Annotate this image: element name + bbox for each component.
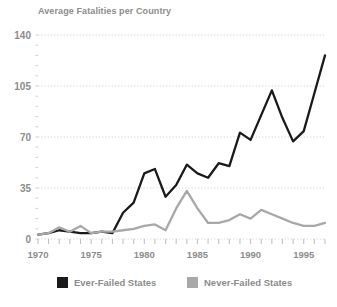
data-series [38,55,325,234]
x-tick-label-1980: 1980 [134,249,155,260]
chart-container: Average Fatalities per Country 035701051… [0,0,337,307]
series-line-ever-failed-states [38,55,325,234]
legend-swatch-0 [57,277,68,288]
x-tick-label-1970: 1970 [27,249,48,260]
x-axis-ticks: 197019751980198519901995 [27,249,315,260]
gridlines [38,35,325,239]
legend-label-1: Never-Failed States [204,277,292,288]
x-axis [38,239,325,244]
y-tick-label-70: 70 [20,132,32,143]
y-tick-label-105: 105 [14,81,31,92]
x-tick-label-1975: 1975 [81,249,103,260]
y-tick-label-35: 35 [20,183,32,194]
chart-legend: Ever-Failed StatesNever-Failed States [57,277,292,288]
series-line-never-failed-states [38,191,325,235]
legend-swatch-1 [187,277,198,288]
x-tick-label-1990: 1990 [240,249,261,260]
y-tick-label-0: 0 [25,234,31,245]
y-axis-ticks: 03570105140 [14,30,38,245]
x-tick-label-1985: 1985 [187,249,209,260]
x-tick-label-1995: 1995 [293,249,315,260]
y-tick-label-140: 140 [14,30,31,41]
legend-label-0: Ever-Failed States [74,277,156,288]
chart-plot: 03570105140 197019751980198519901995 Eve… [0,0,337,307]
